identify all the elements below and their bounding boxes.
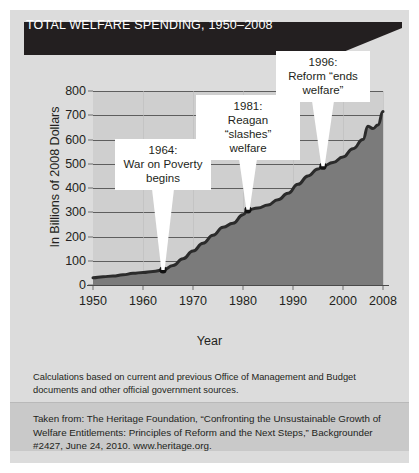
gridline-vertical [383, 91, 384, 285]
callout-reform-ends-welfare: 1996:Reform “endswelfare” [276, 51, 370, 102]
callout-line: Reagan “slashes” [203, 113, 293, 141]
chart-card: TOTAL WELFARE SPENDING, 1950–2008 In Bil… [10, 10, 409, 463]
callout-reagan-slashes: 1981:Reagan “slashes”welfare [196, 95, 300, 160]
callout-line: War on Poverty [122, 157, 204, 171]
y-axis-tick-label: 300 [65, 205, 86, 219]
y-axis-tick-label: 700 [65, 108, 86, 122]
y-axis-tick-label: 200 [65, 230, 86, 244]
page-title: TOTAL WELFARE SPENDING, 1950–2008 [26, 18, 273, 32]
callout-line: Reform “ends [283, 69, 363, 83]
y-axis-tick-label: 600 [65, 133, 86, 147]
y-axis-tick-label: 800 [65, 84, 86, 98]
y-axis-tick-label: 400 [65, 181, 86, 195]
callout-line: begins [122, 171, 204, 185]
callout-line: welfare [203, 141, 293, 155]
y-axis-label: In Billions of 2008 Dollars [48, 82, 62, 272]
callout-line: welfare” [283, 83, 363, 97]
source-note: Taken from: The Heritage Foundation, “Co… [33, 412, 395, 453]
callout-line: 1996: [283, 55, 363, 69]
plot-area: 0100200300400500600700800195019601970198… [93, 91, 383, 285]
callout-line: 1964: [122, 143, 204, 157]
y-axis-tick-label: 500 [65, 157, 86, 171]
calculations-note: Calculations based on current and previo… [33, 371, 393, 397]
y-axis-tick-label: 0 [79, 278, 86, 292]
chart-container: In Billions of 2008 Dollars Year 0100200… [24, 62, 395, 352]
y-axis-tick-label: 100 [65, 254, 86, 268]
